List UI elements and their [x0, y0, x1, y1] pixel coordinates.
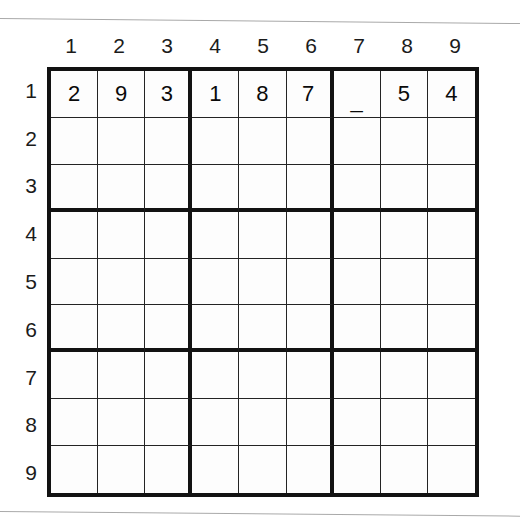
cell-value: 8	[256, 83, 268, 105]
cell-r4c5[interactable]	[239, 212, 286, 259]
cell-value: 4	[445, 83, 457, 105]
cell-r8c3[interactable]	[145, 399, 192, 446]
cell-r2c2[interactable]	[98, 118, 145, 165]
row-header-8: 8	[8, 401, 42, 449]
cell-r7c7[interactable]	[334, 352, 381, 399]
cell-r4c3[interactable]	[145, 212, 192, 259]
column-header-2: 2	[95, 31, 143, 61]
cell-r1c9[interactable]: 4	[428, 71, 475, 118]
cell-r5c2[interactable]	[98, 259, 145, 306]
cell-r2c6[interactable]	[287, 118, 334, 165]
cell-r7c5[interactable]	[239, 352, 286, 399]
cell-r4c2[interactable]	[98, 212, 145, 259]
cell-r7c1[interactable]	[51, 352, 98, 399]
cell-r2c8[interactable]	[381, 118, 428, 165]
cell-r5c1[interactable]	[51, 259, 98, 306]
cell-r1c8[interactable]: 5	[381, 71, 428, 118]
column-header-8: 8	[383, 31, 431, 61]
cell-r3c3[interactable]	[145, 165, 192, 212]
cell-r3c6[interactable]	[287, 165, 334, 212]
cell-r7c6[interactable]	[287, 352, 334, 399]
cell-r3c4[interactable]	[192, 165, 239, 212]
cell-r5c8[interactable]	[381, 259, 428, 306]
cell-r2c1[interactable]	[51, 118, 98, 165]
cell-r6c3[interactable]	[145, 305, 192, 352]
column-header-6: 6	[287, 31, 335, 61]
cell-r9c8[interactable]	[381, 446, 428, 493]
cell-r4c7[interactable]	[334, 212, 381, 259]
sudoku-grid[interactable]: 293187_54	[47, 67, 479, 497]
cell-r1c2[interactable]: 9	[98, 71, 145, 118]
cell-r9c3[interactable]	[145, 446, 192, 493]
cell-r6c9[interactable]	[428, 305, 475, 352]
cell-r7c3[interactable]	[145, 352, 192, 399]
cell-r8c4[interactable]	[192, 399, 239, 446]
cell-r3c8[interactable]	[381, 165, 428, 212]
cell-r6c4[interactable]	[192, 305, 239, 352]
cell-r9c6[interactable]	[287, 446, 334, 493]
cell-value: 7	[302, 83, 314, 105]
cell-r6c8[interactable]	[381, 305, 428, 352]
cell-r4c8[interactable]	[381, 212, 428, 259]
cell-r9c4[interactable]	[192, 446, 239, 493]
cell-r4c1[interactable]	[51, 212, 98, 259]
cell-r7c4[interactable]	[192, 352, 239, 399]
cell-r9c2[interactable]	[98, 446, 145, 493]
cell-r5c9[interactable]	[428, 259, 475, 306]
cell-r3c7[interactable]	[334, 165, 381, 212]
cell-r7c9[interactable]	[428, 352, 475, 399]
cell-r8c2[interactable]	[98, 399, 145, 446]
cell-r8c5[interactable]	[239, 399, 286, 446]
row-header-7: 7	[8, 354, 42, 402]
cell-r4c4[interactable]	[192, 212, 239, 259]
cell-value: 1	[209, 83, 221, 105]
cell-r8c1[interactable]	[51, 399, 98, 446]
column-header-4: 4	[191, 31, 239, 61]
cell-r2c7[interactable]	[334, 118, 381, 165]
cell-r2c4[interactable]	[192, 118, 239, 165]
cell-r3c9[interactable]	[428, 165, 475, 212]
column-header-9: 9	[431, 31, 479, 61]
cell-r3c2[interactable]	[98, 165, 145, 212]
cell-r6c7[interactable]	[334, 305, 381, 352]
cell-r1c6[interactable]: 7	[287, 71, 334, 118]
cell-r6c6[interactable]	[287, 305, 334, 352]
cell-r2c5[interactable]	[239, 118, 286, 165]
cell-r5c5[interactable]	[239, 259, 286, 306]
cell-r6c1[interactable]	[51, 305, 98, 352]
cell-r6c5[interactable]	[239, 305, 286, 352]
cell-r4c9[interactable]	[428, 212, 475, 259]
cell-r8c7[interactable]	[334, 399, 381, 446]
cell-r5c4[interactable]	[192, 259, 239, 306]
cell-r8c8[interactable]	[381, 399, 428, 446]
cell-r5c3[interactable]	[145, 259, 192, 306]
cell-r6c2[interactable]	[98, 305, 145, 352]
cell-r1c4[interactable]: 1	[192, 71, 239, 118]
cell-r7c2[interactable]	[98, 352, 145, 399]
row-header-9: 9	[8, 449, 42, 497]
cell-r5c6[interactable]	[287, 259, 334, 306]
cell-r4c6[interactable]	[287, 212, 334, 259]
cell-r1c3[interactable]: 3	[145, 71, 192, 118]
cell-r5c7[interactable]	[334, 259, 381, 306]
cell-r3c5[interactable]	[239, 165, 286, 212]
cell-r9c1[interactable]	[51, 446, 98, 493]
cell-r2c9[interactable]	[428, 118, 475, 165]
cell-r1c1[interactable]: 2	[51, 71, 98, 118]
cell-r8c9[interactable]	[428, 399, 475, 446]
cell-r8c6[interactable]	[287, 399, 334, 446]
cell-r2c3[interactable]	[145, 118, 192, 165]
column-header-3: 3	[143, 31, 191, 61]
cell-r1c7[interactable]: _	[334, 71, 381, 118]
row-header-column: 123456789	[8, 67, 42, 497]
cell-r9c5[interactable]	[239, 446, 286, 493]
cell-value: 3	[161, 83, 173, 105]
row-header-3: 3	[8, 163, 42, 211]
cell-r1c5[interactable]: 8	[239, 71, 286, 118]
column-header-row: 123456789	[47, 31, 479, 61]
cell-r3c1[interactable]	[51, 165, 98, 212]
cell-r7c8[interactable]	[381, 352, 428, 399]
cell-r9c7[interactable]	[334, 446, 381, 493]
cell-r9c9[interactable]	[428, 446, 475, 493]
